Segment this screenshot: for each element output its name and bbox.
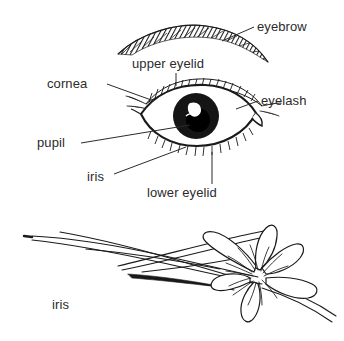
iris-flower-illustration [24, 225, 336, 322]
diagram-artwork [0, 0, 344, 341]
label-lower-eyelid: lower eyelid [147, 186, 217, 200]
label-iris-flower: iris [52, 298, 69, 312]
label-cornea: cornea [47, 77, 87, 91]
label-iris-eye: iris [87, 170, 104, 184]
leader-iris [114, 147, 186, 174]
leader-cornea [107, 84, 154, 101]
eye-illustration [81, 25, 281, 184]
iris-and-pupil [173, 93, 219, 139]
label-pupil: pupil [37, 136, 65, 150]
label-eyelash: eyelash [261, 94, 307, 108]
diagram-page: eyebrow upper eyelid cornea eyelash pupi… [0, 0, 344, 341]
iris-petals [203, 225, 317, 322]
label-eyebrow: eyebrow [257, 20, 307, 34]
label-upper-eyelid: upper eyelid [132, 57, 204, 71]
